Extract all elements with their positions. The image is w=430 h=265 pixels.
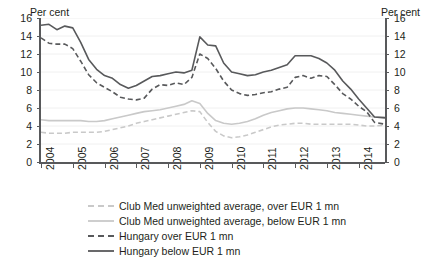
x-tick-mark xyxy=(73,164,74,168)
x-tick-label: 2007 xyxy=(140,147,151,170)
x-tick-mark xyxy=(295,164,296,168)
y-tick-label: 8 xyxy=(10,85,32,96)
chart-legend: Club Med unweighted average, over EUR 1 … xyxy=(88,198,418,258)
y-tick-label: 10 xyxy=(394,67,416,78)
legend-item: Hungary over EUR 1 mn xyxy=(88,228,418,243)
y-tick-label: 12 xyxy=(394,49,416,60)
y-axis-title-left: Per cent xyxy=(30,6,69,18)
series-line-1 xyxy=(41,101,385,124)
x-tick-mark xyxy=(136,164,137,168)
y-tick-label: 16 xyxy=(394,13,416,24)
y-tick-label: 2 xyxy=(10,139,32,150)
legend-label: Hungary below EUR 1 mn xyxy=(119,245,240,257)
x-tick-label: 2011 xyxy=(267,147,278,170)
legend-label: Hungary over EUR 1 mn xyxy=(119,230,233,242)
legend-key-swatch xyxy=(88,201,114,211)
y-tick-label: 12 xyxy=(10,49,32,60)
series-line-0 xyxy=(41,111,385,138)
y-tick-label: 4 xyxy=(10,121,32,132)
plot-area xyxy=(41,18,385,162)
legend-item: Hungary below EUR 1 mn xyxy=(88,243,418,258)
legend-key-swatch xyxy=(88,231,114,241)
legend-label: Club Med unweighted average, below EUR 1… xyxy=(119,215,346,227)
legend-key-swatch xyxy=(88,216,114,226)
legend-item: Club Med unweighted average, below EUR 1… xyxy=(88,213,418,228)
x-tick-label: 2009 xyxy=(204,147,215,170)
y-tick-label: 6 xyxy=(10,103,32,114)
x-tick-mark xyxy=(105,164,106,168)
plot-svg xyxy=(41,18,385,162)
y-tick-label: 14 xyxy=(10,31,32,42)
legend-key-swatch xyxy=(88,246,114,256)
x-tick-label: 2006 xyxy=(109,147,120,170)
y-tick-label: 14 xyxy=(394,31,416,42)
x-tick-label: 2004 xyxy=(45,147,56,170)
y-tick-label: 10 xyxy=(10,67,32,78)
y-tick-label: 2 xyxy=(394,139,416,150)
x-tick-mark xyxy=(41,164,42,168)
x-tick-mark xyxy=(200,164,201,168)
series-line-3 xyxy=(41,24,385,118)
x-tick-label: 2008 xyxy=(172,147,183,170)
x-tick-label: 2013 xyxy=(331,147,342,170)
y-tick-label: 0 xyxy=(394,157,416,168)
y-tick-label: 8 xyxy=(394,85,416,96)
x-tick-mark xyxy=(168,164,169,168)
y-axis-line xyxy=(39,18,41,163)
series-line-2 xyxy=(41,38,385,124)
y-tick-label: 0 xyxy=(10,157,32,168)
x-tick-mark xyxy=(359,164,360,168)
legend-label: Club Med unweighted average, over EUR 1 … xyxy=(119,200,339,212)
x-tick-label: 2014 xyxy=(363,147,374,170)
y-tick-label: 6 xyxy=(394,103,416,114)
x-tick-label: 2012 xyxy=(299,147,310,170)
legend-item: Club Med unweighted average, over EUR 1 … xyxy=(88,198,418,213)
x-tick-mark xyxy=(263,164,264,168)
y-tick-label: 16 xyxy=(10,13,32,24)
x-tick-label: 2010 xyxy=(236,147,247,170)
x-tick-mark xyxy=(232,164,233,168)
x-axis-line xyxy=(39,162,385,164)
chart-figure: Per cent Per cent 0246810121416 02468101… xyxy=(0,0,430,265)
y-axis-line xyxy=(385,18,387,163)
x-tick-mark xyxy=(327,164,328,168)
y-tick-label: 4 xyxy=(394,121,416,132)
x-tick-label: 2005 xyxy=(77,147,88,170)
